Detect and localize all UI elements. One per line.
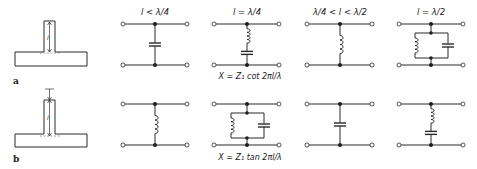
terminal-icon — [185, 143, 189, 147]
condition-label: l = λ/4 — [233, 7, 261, 17]
stub-equivalent-circuits-diagram: l a l b l < λ/4 l = λ/4 λ/4 < l < λ/2 l … — [0, 0, 477, 169]
terminal-icon — [461, 63, 465, 67]
inductor-icon — [340, 36, 343, 54]
equivalent-circuit-a-4 — [397, 22, 465, 67]
terminal-icon — [461, 102, 465, 106]
terminal-icon — [397, 143, 401, 147]
terminal-icon — [212, 143, 216, 147]
formula-short-stub: X = Z₁ tan 2πl/λ — [217, 153, 282, 162]
terminal-icon — [121, 22, 125, 26]
t-junction-outline-b — [15, 100, 87, 147]
terminal-icon — [305, 22, 309, 26]
terminal-icon — [277, 143, 281, 147]
terminal-icon — [185, 22, 189, 26]
stub-drawing-b: l — [15, 89, 87, 147]
terminal-icon — [185, 102, 189, 106]
equivalent-circuit-a-2 — [212, 22, 281, 67]
condition-label: λ/4 < l < λ/2 — [312, 7, 367, 17]
equivalent-circuit-b-3 — [305, 102, 374, 147]
length-label-a: l — [47, 34, 49, 41]
equivalent-circuit-b-1 — [121, 102, 189, 147]
terminal-icon — [277, 22, 281, 26]
terminal-icon — [185, 63, 189, 67]
condition-label: l = λ/2 — [417, 7, 445, 17]
inductor-icon — [231, 118, 234, 133]
terminal-icon — [397, 102, 401, 106]
inductor-icon — [431, 109, 434, 123]
row-label-b: b — [13, 154, 19, 164]
terminal-icon — [305, 102, 309, 106]
terminal-icon — [121, 143, 125, 147]
length-label-b: l — [47, 114, 49, 121]
terminal-icon — [121, 63, 125, 67]
equivalent-circuit-b-4 — [397, 102, 465, 147]
terminal-icon — [370, 143, 374, 147]
formula-open-stub: X = Z₁ cot 2πl/λ — [217, 72, 281, 81]
terminal-icon — [397, 22, 401, 26]
terminal-icon — [121, 102, 125, 106]
terminal-icon — [212, 22, 216, 26]
t-junction-outline-a — [15, 21, 87, 66]
terminal-icon — [397, 63, 401, 67]
terminal-icon — [277, 102, 281, 106]
terminal-icon — [370, 102, 374, 106]
terminal-icon — [370, 22, 374, 26]
terminal-icon — [212, 63, 216, 67]
circuits-layer — [121, 22, 465, 147]
terminal-icon — [305, 143, 309, 147]
equivalent-circuit-b-2 — [212, 102, 281, 147]
terminal-icon — [370, 63, 374, 67]
stub-drawing-a: l — [15, 21, 87, 66]
inductor-icon — [247, 29, 250, 43]
terminal-icon — [461, 22, 465, 26]
condition-label: l < λ/4 — [141, 7, 169, 17]
equivalent-circuit-a-1 — [121, 22, 189, 67]
equivalent-circuit-a-3 — [305, 22, 374, 67]
terminal-icon — [212, 102, 216, 106]
terminal-icon — [461, 143, 465, 147]
row-label-a: a — [13, 76, 19, 86]
inductor-icon — [415, 38, 418, 53]
terminal-icon — [277, 63, 281, 67]
inductor-icon — [155, 116, 158, 134]
terminal-icon — [305, 63, 309, 67]
